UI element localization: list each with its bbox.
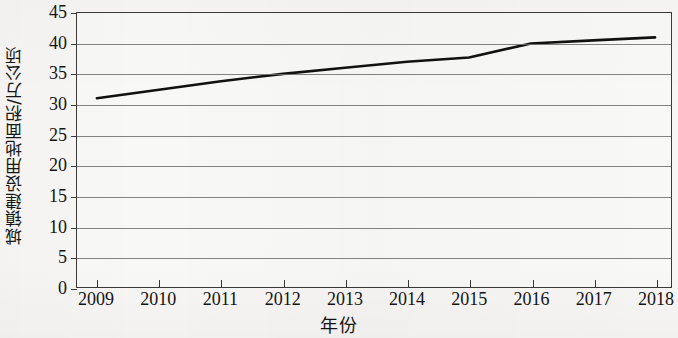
x-axis-tick [159,280,160,287]
x-axis-tick [221,280,222,287]
x-axis-tick-label: 2011 [203,290,238,308]
gridline [77,74,671,75]
y-axis-title: 城镇建设用地面积/万公顷 [0,0,26,290]
x-axis-tick-label: 2009 [78,290,114,308]
gridline [77,197,671,198]
y-axis-tick-label: 35 [49,64,67,82]
x-axis-tick [533,280,534,287]
x-axis-tick-label: 2017 [576,290,612,308]
y-axis-tick-label: 5 [58,248,67,266]
x-axis-tick-label: 2014 [389,290,425,308]
y-axis-tick-label: 20 [49,156,67,174]
y-axis-tick [71,13,77,14]
x-axis-tick-label: 2018 [638,290,674,308]
x-axis-tick [408,280,409,287]
chart-figure: 城镇建设用地面积/万公顷 051015202530354045 20092010… [0,0,678,338]
x-axis-tick [284,280,285,287]
y-axis-tick-label: 45 [49,3,67,21]
gridline [77,136,671,137]
gridline [77,258,671,259]
y-axis-tick-label: 40 [49,34,67,52]
gridline [77,105,671,106]
x-axis-tick-label: 2015 [451,290,487,308]
x-axis-tick [657,280,658,287]
y-axis-tick-label: 30 [49,95,67,113]
y-axis-tick-label: 15 [49,187,67,205]
x-axis-tick [97,280,98,287]
gridline [77,228,671,229]
gridline [77,44,671,45]
x-axis-tick-label: 2012 [265,290,301,308]
x-axis-tick-label: 2010 [140,290,176,308]
x-axis-tick [470,280,471,287]
data-series-line [77,13,671,287]
plot-area [76,12,672,288]
y-axis-title-text: 城镇建设用地面积/万公顷 [1,46,26,245]
x-axis-tick-label: 2016 [514,290,550,308]
x-axis-tick [595,280,596,287]
y-axis-tick-label: 25 [49,126,67,144]
x-axis-tick [346,280,347,287]
gridline [77,166,671,167]
y-axis-tick-label: 10 [49,218,67,236]
x-axis-title: 年份 [0,311,678,337]
y-axis-tick-labels: 051015202530354045 [26,0,72,338]
x-axis-tick-label: 2013 [327,290,363,308]
